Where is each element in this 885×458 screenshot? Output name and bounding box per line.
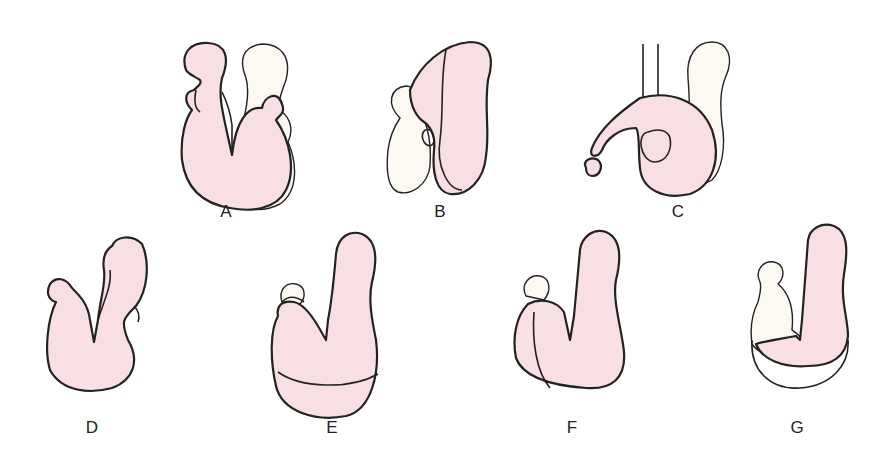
- panel-label-d: D: [77, 418, 107, 438]
- figure-canvas: [0, 0, 885, 458]
- panel-d-drawing: [47, 237, 147, 390]
- panel-label-a: A: [211, 202, 241, 222]
- panel-g-drawing: [751, 225, 848, 388]
- panel-label-e: E: [317, 418, 347, 438]
- panel-c-drawing: [585, 42, 729, 196]
- panel-label-b: B: [425, 202, 455, 222]
- panel-label-f: F: [557, 418, 587, 438]
- panel-label-c: C: [663, 202, 693, 222]
- panel-a-drawing: [182, 43, 295, 210]
- panel-e-drawing: [272, 233, 378, 418]
- panel-f-drawing: [515, 231, 625, 388]
- panel-b-drawing: [387, 42, 491, 194]
- panel-label-g: G: [782, 418, 812, 438]
